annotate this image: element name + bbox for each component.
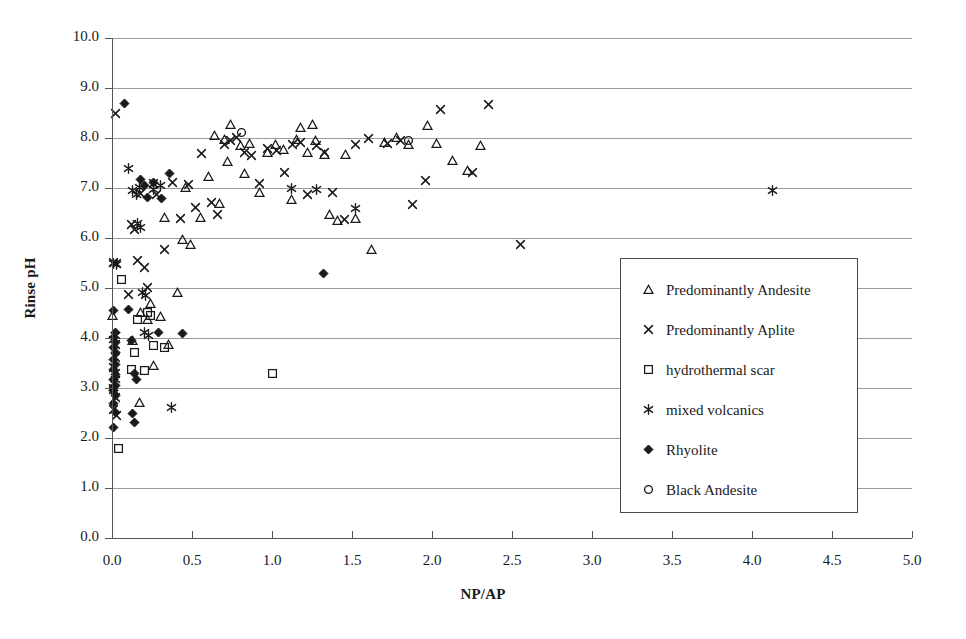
data-point — [123, 304, 134, 315]
data-point — [212, 209, 223, 220]
data-point — [467, 167, 478, 178]
data-point — [239, 147, 250, 158]
data-point — [177, 328, 188, 339]
y-axis-tick-label: 0.0 — [29, 528, 99, 545]
data-point — [127, 185, 138, 196]
data-point — [129, 224, 140, 235]
data-point — [119, 98, 130, 109]
x-axis-tick-mark — [112, 531, 113, 538]
data-point — [156, 193, 167, 204]
x-axis-tick-label: 4.5 — [797, 552, 867, 569]
legend-item-label: Black Andesite — [665, 483, 757, 498]
data-point — [108, 374, 119, 385]
data-point — [206, 197, 217, 208]
data-point — [134, 182, 145, 193]
data-point — [318, 268, 329, 279]
x-axis-tick-label: 0.5 — [157, 552, 227, 569]
y-axis-tick-mark — [105, 188, 112, 189]
data-point — [139, 180, 150, 191]
x-axis-tick-label: 4.0 — [717, 552, 787, 569]
data-point — [407, 199, 418, 210]
y-axis-tick-mark — [105, 488, 112, 489]
data-point — [391, 132, 402, 143]
legend-item[interactable]: Predominantly Andesite — [643, 281, 811, 299]
data-point — [129, 347, 140, 358]
data-point — [225, 135, 236, 146]
y-axis-tick-mark — [105, 238, 112, 239]
data-point — [108, 384, 119, 395]
legend-item-label: Rhyolite — [665, 443, 718, 458]
y-axis-tick-mark — [105, 38, 112, 39]
legend-item[interactable]: Predominantly Aplite — [643, 321, 795, 339]
x-cross-icon — [643, 321, 665, 339]
data-point — [219, 139, 230, 150]
x-axis-tick-label: 2.5 — [477, 552, 547, 569]
data-point — [403, 139, 414, 150]
scatter-chart: Rinse pH 0.01.02.03.04.05.06.07.08.09.01… — [0, 0, 966, 639]
x-axis-tick-mark — [432, 531, 433, 538]
diamond-filled-icon — [643, 441, 665, 459]
data-point — [262, 147, 273, 158]
data-point — [167, 177, 178, 188]
data-point — [159, 244, 170, 255]
data-point — [319, 147, 330, 158]
data-point — [153, 327, 164, 338]
data-point — [462, 165, 473, 176]
data-point — [126, 335, 137, 346]
data-point — [108, 257, 119, 268]
data-point — [164, 168, 175, 179]
data-point — [231, 132, 242, 143]
data-point — [108, 385, 119, 396]
data-point — [222, 156, 233, 167]
legend-item[interactable]: Rhyolite — [643, 441, 718, 459]
data-point — [295, 122, 306, 133]
data-point — [163, 339, 174, 350]
data-point — [225, 119, 236, 130]
data-point — [235, 140, 246, 151]
legend-item[interactable]: Black Andesite — [643, 481, 757, 499]
data-point — [142, 307, 153, 318]
x-axis-tick-label: 3.5 — [637, 552, 707, 569]
x-axis-tick-mark — [352, 531, 353, 538]
x-axis-tick-mark — [752, 531, 753, 538]
data-point — [286, 194, 297, 205]
data-point — [310, 135, 321, 146]
data-point — [108, 404, 119, 415]
data-point — [431, 138, 442, 149]
x-axis-tick-label: 3.0 — [557, 552, 627, 569]
y-axis-tick-label: 8.0 — [29, 128, 99, 145]
data-point — [185, 239, 196, 250]
data-point — [155, 311, 166, 322]
data-point — [108, 258, 119, 269]
gridline-horizontal — [112, 188, 912, 189]
x-axis-tick-label: 0.0 — [77, 552, 147, 569]
data-point — [209, 130, 220, 141]
y-axis-tick-label: 7.0 — [29, 178, 99, 195]
x-axis-tick-mark — [912, 531, 913, 538]
legend-item[interactable]: hydrothermal scar — [643, 361, 775, 379]
x-axis-tick-mark — [672, 531, 673, 538]
y-axis-tick-mark — [105, 288, 112, 289]
x-axis-tick-label: 2.0 — [397, 552, 467, 569]
data-point — [340, 149, 351, 160]
y-axis-line — [112, 38, 113, 538]
y-axis-tick-label: 2.0 — [29, 428, 99, 445]
data-point — [108, 354, 119, 365]
data-point — [339, 214, 350, 225]
data-point — [135, 188, 146, 199]
data-point — [139, 327, 150, 338]
data-point — [475, 140, 486, 151]
data-point — [142, 314, 153, 325]
data-point — [159, 342, 170, 353]
data-point — [319, 149, 330, 160]
data-point — [148, 177, 159, 188]
data-point — [129, 368, 140, 379]
data-point — [135, 307, 146, 318]
data-point — [447, 155, 458, 166]
legend-item-label: hydrothermal scar — [665, 363, 775, 378]
data-point — [324, 209, 335, 220]
data-point — [131, 189, 142, 200]
square-open-icon — [643, 361, 665, 379]
x-axis-tick-mark — [512, 531, 513, 538]
legend-item[interactable]: mixed volcanics — [643, 401, 764, 419]
